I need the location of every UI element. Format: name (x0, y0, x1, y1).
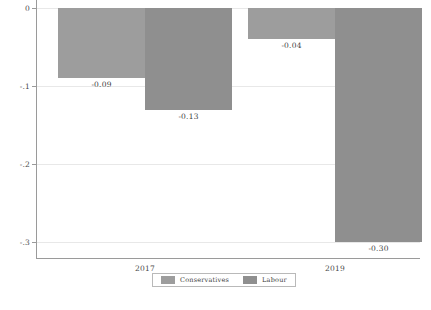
y-axis-spine (36, 0, 37, 258)
y-axis-tick-label: -.1 (20, 82, 30, 91)
bar (248, 8, 335, 39)
gridline (37, 242, 420, 243)
y-axis-tick-label: -.2 (20, 160, 30, 169)
y-axis-tick-label: 0 (25, 4, 30, 13)
bar (145, 8, 232, 110)
bar-value-label: -0.13 (178, 112, 198, 121)
y-axis-tick-label: -.3 (20, 238, 30, 247)
legend-swatch (243, 276, 257, 284)
x-axis-spine (36, 258, 420, 259)
y-axis-tick-mark (32, 86, 37, 87)
legend-label: Conservatives (180, 276, 229, 284)
y-axis-tick-mark (32, 242, 37, 243)
x-axis-group-label: 2017 (135, 264, 155, 273)
bar (58, 8, 145, 78)
chart-legend: ConservativesLabour (152, 273, 296, 287)
bar-value-label: -0.04 (281, 41, 301, 50)
legend-label: Labour (262, 276, 287, 284)
legend-entry: Conservatives (161, 276, 229, 284)
y-axis-tick-mark (32, 164, 37, 165)
legend-swatch (161, 276, 175, 284)
bar-chart: 0-.1-.2-.3 -0.09-0.13-0.04-0.30 20172019… (0, 0, 431, 310)
plot-area: 0-.1-.2-.3 -0.09-0.13-0.04-0.30 20172019 (37, 8, 420, 258)
y-axis-tick-mark (32, 8, 37, 9)
bar-value-label: -0.30 (368, 244, 388, 253)
bar (335, 8, 422, 242)
x-axis-group-label: 2019 (325, 264, 345, 273)
bar-value-label: -0.09 (91, 80, 111, 89)
legend-entry: Labour (243, 276, 287, 284)
